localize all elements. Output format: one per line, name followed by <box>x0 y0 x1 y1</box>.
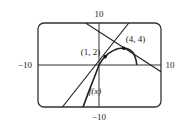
chart: 10 −10 −10 10 (1, 2)(4, 4)f(x) <box>0 0 178 125</box>
y-max-tick-label: 10 <box>95 9 105 19</box>
function-curve <box>83 48 137 107</box>
annotation-label: f(x) <box>89 86 102 96</box>
point-marker <box>122 46 126 50</box>
annotation-label: (1, 2) <box>81 47 101 57</box>
annotation-label: (4, 4) <box>126 34 146 44</box>
y-min-tick-label: −10 <box>92 112 107 122</box>
x-min-tick-label: −10 <box>18 60 33 70</box>
x-max-tick-label: 10 <box>166 60 176 70</box>
point-marker <box>103 55 107 59</box>
